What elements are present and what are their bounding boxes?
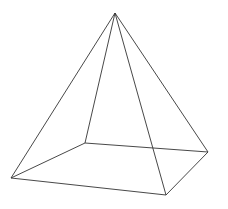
edge-apex-front [115, 13, 166, 195]
pyramid-diagram [0, 0, 228, 209]
edge-back-right [85, 143, 208, 152]
edge-front-left [11, 178, 166, 195]
edge-right-front [166, 152, 208, 195]
edge-apex-back [85, 13, 115, 143]
edge-apex-right [115, 13, 208, 152]
